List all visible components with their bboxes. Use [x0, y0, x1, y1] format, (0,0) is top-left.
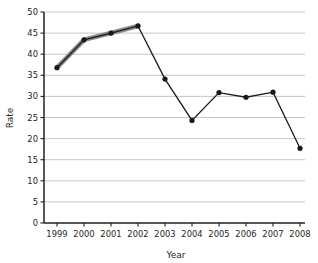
- y-axis-tick-label: 40: [27, 49, 38, 59]
- data-point: [243, 95, 248, 100]
- x-axis-tick-label: 2000: [73, 229, 94, 239]
- data-point: [108, 30, 113, 35]
- data-point: [270, 90, 275, 95]
- chart-canvas: 05101520253035404550 1999200020012002200…: [0, 0, 318, 263]
- data-point: [54, 65, 59, 70]
- data-point: [135, 23, 140, 28]
- y-axis-tick-label: 0: [33, 218, 38, 228]
- y-axis-tick-label: 45: [27, 28, 38, 38]
- x-axis-tick-label: 2002: [127, 229, 148, 239]
- x-axis-tick-label: 2005: [208, 229, 229, 239]
- data-point: [297, 146, 302, 151]
- y-axis-tick-label: 10: [27, 176, 38, 186]
- x-axis-tick-label: 2007: [262, 229, 283, 239]
- x-axis-tick-label: 2001: [100, 229, 121, 239]
- data-point: [189, 118, 194, 123]
- data-point: [81, 37, 86, 42]
- y-axis-tick-label: 50: [27, 7, 38, 17]
- data-point: [216, 90, 221, 95]
- line-chart: 05101520253035404550 1999200020012002200…: [0, 0, 318, 263]
- x-axis-title: Year: [165, 250, 185, 260]
- y-axis-tick-label: 5: [33, 197, 38, 207]
- y-axis-title: Rate: [5, 107, 15, 128]
- y-axis-tick-label: 15: [27, 155, 38, 165]
- data-point: [162, 77, 167, 82]
- x-axis-tick-label: 2008: [289, 229, 310, 239]
- y-axis-tick-label: 35: [27, 70, 38, 80]
- x-axis-tick-label: 2003: [154, 229, 175, 239]
- x-axis-tick-label: 2006: [235, 229, 256, 239]
- x-axis-tick-label: 1999: [46, 229, 67, 239]
- y-axis-tick-label: 25: [27, 113, 38, 123]
- y-axis-tick-label: 30: [27, 91, 38, 101]
- y-axis-tick-label: 20: [27, 134, 38, 144]
- x-axis-tick-label: 2004: [181, 229, 202, 239]
